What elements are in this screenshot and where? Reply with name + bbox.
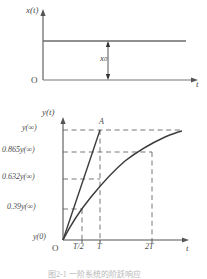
xtick-label-2T: 2T	[145, 243, 153, 251]
x0-arrowhead-up	[106, 41, 110, 47]
x0-amplitude-subscript: 0	[104, 55, 107, 62]
x0-amplitude-label: x0	[100, 54, 107, 63]
xtick-label-T-half: T/2	[73, 243, 84, 251]
input-y-axis-label: x(t)	[26, 6, 39, 15]
initial-tangent-line	[63, 130, 100, 240]
response-x-axis-arrowhead	[182, 238, 189, 243]
x0-arrowhead-down	[106, 74, 110, 80]
xtick-label-T: T	[97, 243, 101, 251]
response-x-axis-label: t	[186, 244, 189, 253]
figure-caption: 图2-1 一阶系统的阶跃响应	[48, 268, 168, 279]
input-step-chart	[0, 0, 207, 100]
ytick-label-y-infinity: y(∞)	[22, 124, 37, 132]
response-y-axis-arrowhead	[60, 117, 65, 124]
input-x-axis-label: t	[196, 80, 199, 89]
ytick-label-y-zero: y(0)	[33, 233, 46, 241]
ytick-label-039: 0.39y(∞)	[7, 203, 36, 211]
response-y-axis-label: y(t)	[42, 108, 55, 117]
input-origin-label: O	[31, 76, 38, 85]
point-a-label: A	[99, 118, 104, 126]
ytick-label-0865: 0.865y(∞)	[2, 146, 35, 154]
input-y-axis-arrowhead	[40, 9, 45, 16]
ytick-label-0632: 0.632y(∞)	[2, 173, 35, 181]
response-origin-label: O	[52, 244, 59, 253]
